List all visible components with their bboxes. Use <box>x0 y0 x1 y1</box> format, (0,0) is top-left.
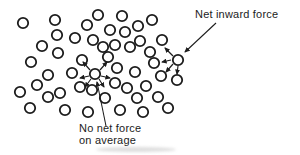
bulk-force-arrow <box>80 76 89 78</box>
molecule <box>147 15 157 25</box>
molecule <box>130 67 140 77</box>
molecule <box>112 63 122 73</box>
molecule <box>149 58 159 68</box>
molecule <box>103 52 113 62</box>
no-net-force-label: No net force on average <box>79 122 141 146</box>
surface-force-arrow <box>165 48 173 56</box>
molecule <box>82 20 92 30</box>
molecule <box>18 18 28 28</box>
molecule <box>135 36 145 46</box>
molecule <box>25 103 35 113</box>
molecule <box>83 107 93 117</box>
molecule <box>125 42 135 52</box>
molecule <box>120 27 130 37</box>
surface-force-arrow <box>166 64 173 72</box>
molecule <box>110 40 120 50</box>
diagram-canvas <box>0 0 300 155</box>
molecule <box>32 80 42 90</box>
molecule <box>43 92 53 102</box>
molecule <box>156 71 166 81</box>
molecule <box>70 33 80 43</box>
molecule <box>163 103 173 113</box>
molecule <box>117 11 127 21</box>
scan-artifact-smudge <box>96 147 176 152</box>
molecule <box>110 78 120 88</box>
molecule <box>141 81 151 91</box>
molecule <box>87 85 97 95</box>
molecule <box>122 83 132 93</box>
molecule <box>115 105 125 115</box>
molecule <box>88 35 98 45</box>
molecule <box>145 47 155 57</box>
molecule <box>105 25 115 35</box>
molecule <box>132 93 142 103</box>
no-net-force-label-line2: on average <box>79 134 141 146</box>
net-inward-force-label: Net inward force <box>195 8 278 20</box>
surface-tension-diagram: Net inward force No net force on average <box>0 0 300 155</box>
bulk-molecule <box>90 69 100 79</box>
bulk-force-arrow <box>100 62 107 70</box>
surface-molecule <box>173 55 183 65</box>
molecule <box>53 48 63 58</box>
molecule <box>77 55 87 65</box>
bulk-force-arrow <box>99 79 104 87</box>
molecule <box>133 21 143 31</box>
molecule <box>67 68 77 78</box>
molecule <box>153 92 163 102</box>
molecule <box>75 82 85 92</box>
molecule <box>37 41 47 51</box>
molecule <box>138 107 148 117</box>
molecule <box>98 42 108 52</box>
molecule <box>26 57 36 67</box>
bulk-force-arrow <box>101 76 110 78</box>
net-inward-pointer-arrow <box>185 23 216 52</box>
molecule <box>60 105 70 115</box>
surface-force-arrow <box>162 60 171 62</box>
molecule <box>55 88 65 98</box>
surface-force-arrow <box>177 66 178 74</box>
molecule <box>93 10 103 20</box>
molecule <box>157 35 167 45</box>
molecule <box>52 30 62 40</box>
molecule <box>43 70 53 80</box>
no-net-force-label-line1: No net force <box>79 122 141 134</box>
molecule <box>50 15 60 25</box>
molecule <box>15 87 25 97</box>
molecule <box>172 75 182 85</box>
